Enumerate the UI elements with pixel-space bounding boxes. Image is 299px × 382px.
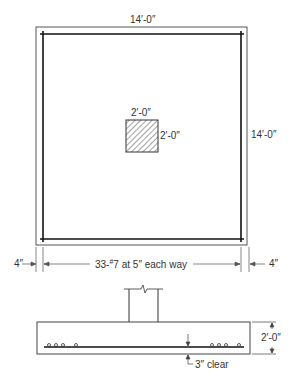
bar-spacing: 7 at 5″ each way [113,259,187,270]
column-height-label: 2′-0″ [160,131,180,141]
section-depth-label: 2′-0″ [261,333,281,343]
footing-section [37,322,250,354]
bar-count: 33- [95,259,109,270]
plan-view [36,27,247,245]
break-line [124,285,163,293]
right-cover-label: 4″ [269,259,278,269]
rebar-dots [48,344,241,347]
left-cover-label: 4″ [14,259,23,269]
footing-drawing [0,0,299,382]
plan-top-dimension-label: 14′-0″ [130,15,155,25]
reinforcement-label: 33-#7 at 5″ each way [95,258,187,270]
column-width-label: 2′-0″ [131,108,151,118]
plan-right-dimension-label: 14′-0″ [251,130,276,140]
section-view [37,285,276,364]
clear-cover-label: 3″ clear [195,360,229,370]
column-hatched [126,120,158,152]
